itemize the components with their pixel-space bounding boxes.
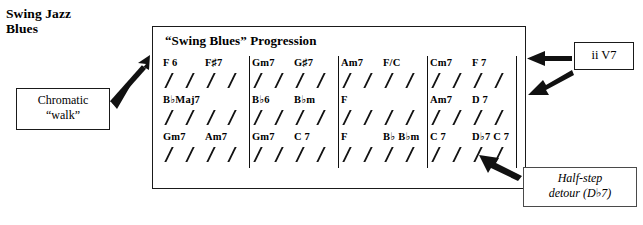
beat-slash bbox=[473, 147, 483, 162]
beat-slashes bbox=[161, 146, 249, 166]
beat-slash bbox=[185, 147, 195, 162]
page-title-line-1: Swing Jazz bbox=[6, 6, 136, 21]
callout-ii-v7-label: ii V7 bbox=[575, 48, 633, 63]
chord-symbol: B♭Maj7 bbox=[163, 93, 200, 106]
chord-symbol: F bbox=[341, 130, 348, 143]
beat-slashes bbox=[250, 146, 338, 166]
measure: Am7D 7 bbox=[428, 93, 517, 131]
measure: C 7D♭7 C 7 bbox=[428, 130, 517, 168]
beat-slashes bbox=[339, 72, 427, 92]
beat-slashes bbox=[161, 109, 249, 129]
measure-chords: C 7D♭7 C 7 bbox=[428, 130, 516, 145]
measure: B♭Maj7 bbox=[161, 93, 250, 131]
beat-slash bbox=[316, 147, 326, 162]
measure-chords: Am7F/C bbox=[339, 56, 427, 71]
measure-chords: Cm7F 7 bbox=[428, 56, 516, 71]
beat-slash bbox=[164, 147, 174, 162]
chord-symbol: Am7 bbox=[430, 93, 452, 106]
beat-slashes bbox=[161, 72, 249, 92]
beat-slashes bbox=[339, 109, 427, 129]
beat-slash bbox=[253, 73, 263, 88]
beat-slash bbox=[227, 73, 237, 88]
beat-slashes bbox=[428, 109, 516, 129]
beat-slash bbox=[431, 110, 441, 125]
chord-symbol: B♭m bbox=[294, 93, 315, 106]
chord-symbol: B♭ B♭m bbox=[383, 130, 419, 143]
beat-slash bbox=[452, 147, 462, 162]
measure: FB♭ B♭m bbox=[339, 130, 428, 168]
beat-slash bbox=[363, 73, 373, 88]
measure-chords: B♭Maj7 bbox=[161, 93, 249, 108]
beat-slash bbox=[452, 110, 462, 125]
measure-chords: B♭6B♭m bbox=[250, 93, 338, 108]
callout-chromatic-line-2: “walk” bbox=[17, 108, 109, 123]
beat-slash bbox=[473, 110, 483, 125]
beat-slash bbox=[431, 73, 441, 88]
chord-symbol: F 7 bbox=[472, 56, 487, 69]
chord-symbol: Cm7 bbox=[430, 56, 452, 69]
chord-symbol: D 7 bbox=[472, 93, 488, 106]
staff-row: B♭Maj7B♭6B♭mFAm7D 7 bbox=[161, 93, 517, 131]
beat-slash bbox=[253, 110, 263, 125]
chord-symbol: G♯7 bbox=[294, 56, 313, 69]
callout-half-step-line-2: detour (D♭7) bbox=[524, 186, 636, 201]
page-title: Swing Jazz Blues bbox=[6, 6, 136, 36]
measure-chords: F bbox=[339, 93, 427, 108]
measure: Gm7G♯7 bbox=[250, 56, 339, 94]
callout-half-step-detour: Half-step detour (D♭7) bbox=[523, 167, 637, 207]
page-title-line-2: Blues bbox=[6, 21, 136, 36]
callout-ii-v7: ii V7 bbox=[574, 42, 634, 70]
beat-slash bbox=[405, 110, 415, 125]
measure-chords: F 6F♯7 bbox=[161, 56, 249, 71]
beat-slash bbox=[206, 73, 216, 88]
beat-slash bbox=[342, 73, 352, 88]
beat-slash bbox=[316, 73, 326, 88]
chord-chart-box: “Swing Blues” Progression F 6F♯7Gm7G♯7Am… bbox=[152, 26, 526, 189]
chord-symbol: B♭6 bbox=[252, 93, 270, 106]
chord-symbol: F/C bbox=[383, 56, 401, 69]
beat-slash bbox=[363, 147, 373, 162]
beat-slash bbox=[494, 73, 504, 88]
measure: Gm7Am7 bbox=[161, 130, 250, 168]
measure-chords: Gm7Am7 bbox=[161, 130, 249, 145]
beat-slash bbox=[384, 147, 394, 162]
arrow-ii-v7-bottom bbox=[528, 70, 574, 95]
chord-symbol: D♭7 C 7 bbox=[472, 130, 509, 143]
chord-symbol: Am7 bbox=[341, 56, 363, 69]
chart-heading: “Swing Blues” Progression bbox=[165, 33, 317, 49]
beat-slash bbox=[227, 147, 237, 162]
chord-symbol: F♯7 bbox=[205, 56, 223, 69]
beat-slash bbox=[295, 110, 305, 125]
staff-row: Gm7Am7Gm7C 7FB♭ B♭mC 7D♭7 C 7 bbox=[161, 130, 517, 168]
beat-slash bbox=[405, 147, 415, 162]
callout-chromatic-line-1: Chromatic bbox=[17, 93, 109, 108]
beat-slashes bbox=[339, 146, 427, 166]
beat-slashes bbox=[428, 72, 516, 92]
chord-symbol: F 6 bbox=[163, 56, 178, 69]
beat-slash bbox=[494, 110, 504, 125]
chord-symbol: Am7 bbox=[205, 130, 227, 143]
chord-symbol: F bbox=[341, 93, 348, 106]
beat-slash bbox=[316, 110, 326, 125]
callout-half-step-line-1: Half-step bbox=[524, 171, 636, 186]
beat-slash bbox=[295, 147, 305, 162]
beat-slash bbox=[431, 147, 441, 162]
callout-chromatic-walk: Chromatic “walk” bbox=[16, 88, 110, 130]
beat-slash bbox=[384, 110, 394, 125]
arrow-ii-v7-top bbox=[527, 51, 572, 66]
measure-chords: Gm7C 7 bbox=[250, 130, 338, 145]
beat-slash bbox=[342, 110, 352, 125]
beat-slash bbox=[405, 73, 415, 88]
measure: Am7F/C bbox=[339, 56, 428, 94]
measure-chords: Gm7G♯7 bbox=[250, 56, 338, 71]
beat-slash bbox=[206, 147, 216, 162]
chord-symbol: Gm7 bbox=[252, 56, 275, 69]
beat-slashes bbox=[428, 146, 516, 166]
chord-symbol: Gm7 bbox=[163, 130, 186, 143]
beat-slash bbox=[185, 110, 195, 125]
beat-slash bbox=[494, 147, 504, 162]
beat-slashes bbox=[250, 72, 338, 92]
beat-slashes bbox=[250, 109, 338, 129]
arrow-chromatic-walk bbox=[112, 55, 150, 109]
beat-slash bbox=[342, 147, 352, 162]
